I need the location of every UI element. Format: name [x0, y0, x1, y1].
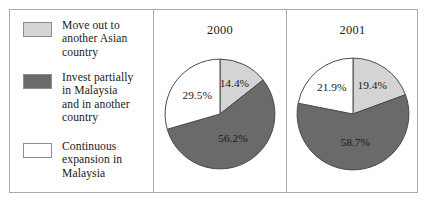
pie-chart-2001: 19.4%58.7%21.9% — [296, 57, 410, 171]
pie-slice-value: 21.9% — [316, 81, 346, 93]
pie-slices-2000 — [165, 59, 275, 169]
legend-swatch-invest-partially-icon — [23, 74, 52, 89]
legend-item-continuous-expansion: Continuous expansion in Malaysia — [23, 140, 149, 180]
pie-slice-value: 56.2% — [218, 132, 248, 144]
pie-slice-value: 14.4% — [220, 77, 250, 89]
pie-slice-value: 58.7% — [340, 136, 370, 148]
pie-slices-2001 — [297, 58, 409, 170]
pie-slice-value: 19.4% — [357, 79, 387, 91]
legend-swatch-continuous-expansion-icon — [23, 143, 52, 158]
figure-frame: Move out to another Asian country Invest… — [9, 9, 418, 193]
legend-label-move-out: Move out to another Asian country — [62, 19, 149, 59]
legend-swatch-move-out-icon — [23, 22, 52, 37]
pie-panel-2000: 2000 14.4%56.2%29.5% — [154, 10, 286, 192]
pie-panel-2001: 2001 19.4%58.7%21.9% — [287, 10, 418, 192]
legend-item-invest-partially: Invest partially in Malaysia and in anot… — [23, 71, 149, 124]
pie-title-2000: 2000 — [154, 23, 286, 38]
legend-label-invest-partially: Invest partially in Malaysia and in anot… — [62, 71, 149, 124]
legend-label-continuous-expansion: Continuous expansion in Malaysia — [62, 140, 149, 180]
pie-title-2001: 2001 — [287, 23, 418, 38]
pie-slice-value: 29.5% — [182, 89, 212, 101]
pie-svg-2001: 19.4%58.7%21.9% — [296, 57, 410, 171]
legend-item-move-out: Move out to another Asian country — [23, 19, 149, 59]
pie-chart-2000: 14.4%56.2%29.5% — [164, 58, 276, 170]
chart-legend: Move out to another Asian country Invest… — [10, 10, 153, 192]
pie-svg-2000: 14.4%56.2%29.5% — [164, 58, 276, 170]
